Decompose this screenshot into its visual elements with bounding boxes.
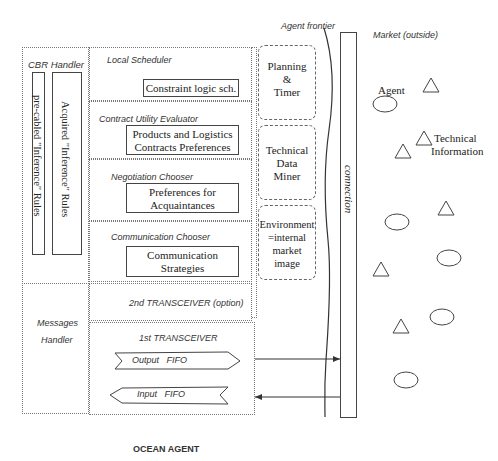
planning-timer-module: Planning & Timer [258,45,316,120]
agent-frontier-label: Agent frontier [281,21,335,31]
local-scheduler-label: Local Scheduler [107,55,172,65]
products-logistics-box: Products and Logistics Contracts Prefere… [126,125,239,155]
diagram-title: OCEAN AGENT [133,444,199,454]
communication-strategies-line2: Strategies [127,262,238,275]
communication-strategies-line1: Communication [127,249,238,262]
messages-handler-label-1: Messages [37,318,78,328]
negotiation-chooser-label: Negotiation Chooser [111,172,193,182]
preferences-line1: Preferences for [127,186,238,199]
cbr-handler-label: CBR Handler [28,59,84,70]
preferences-box: Preferences for Acquaintances [126,183,239,213]
agent-ellipse [373,96,397,112]
second-transceiver-label: 2nd TRANSCEIVER (option) [129,298,244,308]
info-triangle [438,201,454,215]
info-triangle [395,144,411,158]
agent-ellipse [437,250,461,266]
preferences-line2: Acquaintances [127,199,238,212]
planning-line3: Timer [259,86,315,99]
contract-utility-label: Contract Utility Evaluator [99,114,198,124]
info-triangle [423,78,439,92]
technical-info-label-2: Information [431,145,484,158]
technical-info-label-1: Technical [434,132,477,145]
output-fifo-label: Output FIFO [132,355,187,365]
acquired-rules-box: Acquired "Inference" Rules [52,72,82,255]
miner-line2: Data [259,157,315,170]
connection-label: connection [343,165,355,213]
env-line1: Environment [259,218,315,231]
technical-data-miner-module: Technical Data Miner [258,125,316,200]
products-logistics-line1: Products and Logistics [127,128,238,141]
miner-line1: Technical [259,144,315,157]
agent-ellipse [394,372,418,388]
planning-line2: & [259,73,315,86]
constraint-logic-text: Constraint logic sch. [146,82,237,94]
messages-handler-label-2: Handler [41,335,73,345]
messages-handler-box [22,283,89,414]
precabled-rules-text: pre-cabled "Inference" Rules [32,95,43,217]
planning-line1: Planning [259,60,315,73]
side-modules-frame [252,47,257,318]
miner-line3: Miner [259,170,315,183]
constraint-logic-box: Constraint logic sch. [143,79,239,97]
first-transceiver-label: 1st TRANSCEIVER [139,333,218,343]
communication-chooser-label: Communication Chooser [111,232,210,242]
products-logistics-line2: Contracts Preferences [127,141,238,154]
environment-module: Environment =internal market image [258,205,316,280]
env-line2: =internal [259,231,315,244]
connection-bar: connection [340,32,357,418]
info-triangle [373,262,389,276]
info-triangle [416,131,432,145]
market-label: Market (outside) [373,30,438,40]
info-triangle [393,319,409,333]
agent-ellipse [430,309,454,325]
precabled-rules-box: pre-cabled "Inference" Rules [32,72,45,255]
input-fifo-label: Input FIFO [137,389,185,399]
communication-strategies-box: Communication Strategies [126,246,239,277]
acquired-rules-text: Acquired "Inference" Rules [60,101,71,217]
agent-label: Agent [378,84,405,97]
agent-ellipse [385,214,409,230]
env-line4: image [259,257,315,270]
env-line3: market [259,244,315,257]
